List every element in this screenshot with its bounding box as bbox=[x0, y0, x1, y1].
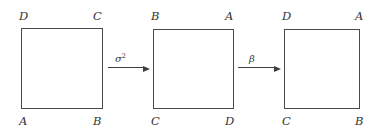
square-1-vertex-bottom-left-label: A bbox=[19, 116, 27, 128]
square-2-vertex-top-right-label: A bbox=[225, 11, 233, 23]
arrow-1-label-base: σ bbox=[115, 53, 122, 64]
square-1-vertex-bottom-right-label: B bbox=[93, 116, 101, 128]
arrow-1-head-icon bbox=[143, 66, 150, 72]
square-3-vertex-top-right-label: A bbox=[355, 11, 363, 23]
square-2-vertex-bottom-left-label: C bbox=[151, 116, 160, 128]
arrow-1-label-exponent: 2 bbox=[122, 52, 126, 60]
arrow-2-line bbox=[238, 67, 277, 68]
square-2-shape bbox=[153, 29, 234, 109]
arrow-2-label-base: β bbox=[249, 53, 255, 64]
square-1-shape bbox=[21, 28, 103, 109]
square-3-vertex-bottom-right-label: B bbox=[355, 116, 363, 128]
diagram-canvas: D C A B σ2 B A C D β D A C B bbox=[0, 0, 378, 138]
arrow-1-group: σ2 bbox=[108, 46, 151, 74]
square-3-vertex-bottom-left-label: C bbox=[282, 116, 291, 128]
square-2-vertex-top-left-label: B bbox=[151, 11, 159, 23]
square-1-vertex-top-right-label: C bbox=[93, 11, 102, 23]
arrow-1-label: σ2 bbox=[115, 53, 126, 64]
arrow-2-label: β bbox=[249, 53, 255, 64]
square-1-vertex-top-left-label: D bbox=[19, 11, 28, 23]
arrow-1-line bbox=[108, 67, 146, 68]
square-3-vertex-top-left-label: D bbox=[282, 11, 291, 23]
square-2-vertex-bottom-right-label: D bbox=[225, 116, 234, 128]
square-3-shape bbox=[284, 29, 360, 109]
arrow-2-head-icon bbox=[274, 66, 281, 72]
arrow-2-group: β bbox=[238, 46, 282, 74]
